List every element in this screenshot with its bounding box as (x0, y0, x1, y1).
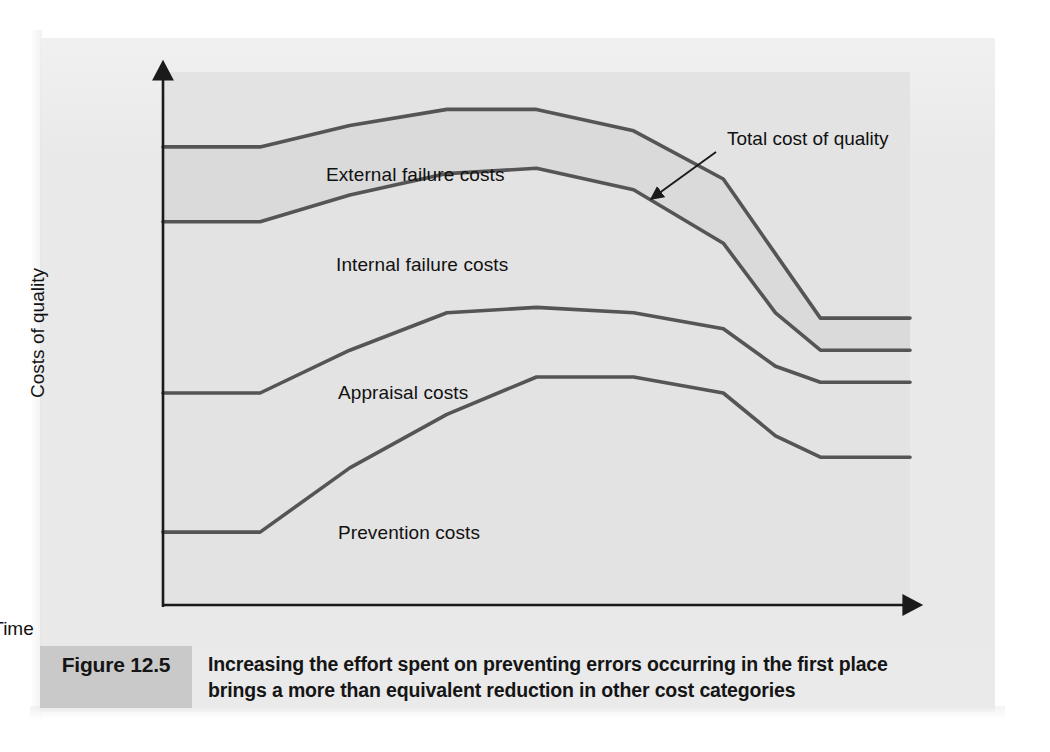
figure-caption-line-1: Increasing the effort spent on preventin… (208, 651, 995, 677)
band-label-prevention-costs: Prevention costs (338, 522, 480, 544)
figure-number-box: Figure 12.5 (40, 646, 192, 708)
figure-12-5: External failure costs Internal failure … (0, 0, 1050, 752)
band-label-internal-failure-costs: Internal failure costs (336, 254, 508, 276)
annotation-total-cost-of-quality: Total cost of quality (727, 128, 889, 150)
figure-caption-line-2: brings a more than equivalent reduction … (208, 677, 995, 703)
band-label-external-failure-costs: External failure costs (326, 164, 505, 186)
figure-caption-text-box: Increasing the effort spent on preventin… (192, 646, 995, 708)
x-axis-label-text: Time (0, 618, 34, 639)
y-axis-label: Costs of quality (27, 223, 49, 443)
x-axis-label: Time (0, 618, 1050, 640)
figure-number: Figure 12.5 (62, 653, 171, 677)
band-label-appraisal-costs: Appraisal costs (338, 382, 468, 404)
figure-caption-bar: Figure 12.5 Increasing the effort spent … (40, 646, 995, 708)
